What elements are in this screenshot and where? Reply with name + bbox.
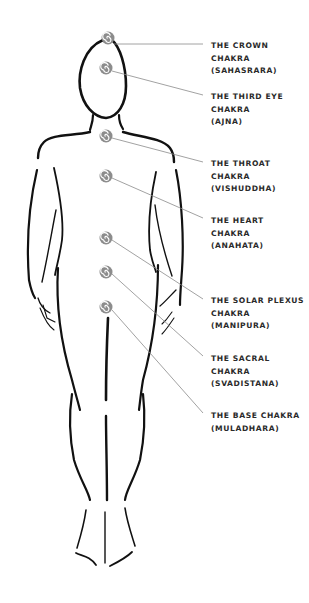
spiral-icon xyxy=(100,130,113,143)
label-line: THE SOLAR PLEXUS xyxy=(211,295,304,308)
label-line: THE BASE CHAKRA xyxy=(211,410,300,423)
label-sanskrit: (ANAHATA) xyxy=(211,240,264,253)
label-line: CHAKRA xyxy=(211,53,277,66)
label-base-chakra: THE BASE CHAKRA (MULADHARA) xyxy=(211,410,300,435)
spiral-icon xyxy=(100,170,113,183)
label-sanskrit: (AJNA) xyxy=(211,116,283,129)
leader-line-base xyxy=(112,310,203,413)
label-heart-chakra: THE HEART CHAKRA (ANAHATA) xyxy=(211,215,264,253)
label-line: THE SACRAL xyxy=(211,353,279,366)
label-sanskrit: (SAHASRARA) xyxy=(211,65,277,78)
label-crown-chakra: THE CROWN CHAKRA (SAHASRARA) xyxy=(211,40,277,78)
spiral-icon xyxy=(100,232,113,245)
label-line: THE THIRD EYE xyxy=(211,91,283,104)
label-third-eye-chakra: THE THIRD EYE CHAKRA (AJNA) xyxy=(211,91,283,129)
label-line: THE THROAT xyxy=(211,158,276,171)
spiral-icon xyxy=(100,62,113,75)
leader-line-heart xyxy=(112,178,203,218)
label-throat-chakra: THE THROAT CHAKRA (VISHUDDHA) xyxy=(211,158,276,196)
label-line: THE HEART xyxy=(211,215,264,228)
chakra-symbols xyxy=(100,32,115,314)
label-line: THE CROWN xyxy=(211,40,277,53)
label-sanskrit: (SVADISTANA) xyxy=(211,378,279,391)
label-sanskrit: (VISHUDDHA) xyxy=(211,183,276,196)
spiral-icon xyxy=(100,266,113,279)
right-shoulder xyxy=(123,132,174,162)
spiral-icon xyxy=(102,32,115,45)
label-sanskrit: (MULADHARA) xyxy=(211,423,300,436)
label-sacral-chakra: THE SACRAL CHAKRA (SVADISTANA) xyxy=(211,353,279,391)
label-line: CHAKRA xyxy=(211,308,304,321)
label-line: CHAKRA xyxy=(211,104,283,117)
label-sanskrit: (MANIPURA) xyxy=(211,320,304,333)
spiral-icon xyxy=(100,301,113,314)
left-shoulder xyxy=(38,132,90,158)
label-solar-plexus-chakra: THE SOLAR PLEXUS CHAKRA (MANIPURA) xyxy=(211,295,304,333)
label-line: CHAKRA xyxy=(211,171,276,184)
label-line: CHAKRA xyxy=(211,366,279,379)
head-outline xyxy=(80,40,126,118)
label-line: CHAKRA xyxy=(211,228,264,241)
